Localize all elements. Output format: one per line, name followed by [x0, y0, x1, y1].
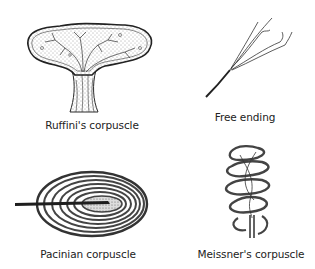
ruffini-corpuscle-illustration: [28, 24, 152, 112]
pacinian-label: Pacinian corpuscle: [38, 248, 138, 260]
free-ending-illustration: [206, 18, 292, 97]
ruffini-label: Ruffini's corpuscle: [42, 119, 142, 131]
pacinian-corpuscle-illustration: [15, 172, 147, 236]
meissner-label: Meissner's corpuscle: [196, 248, 306, 260]
receptor-diagram: [0, 0, 315, 269]
meissner-corpuscle-illustration: [226, 146, 269, 238]
free-ending-label: Free ending: [205, 111, 285, 123]
